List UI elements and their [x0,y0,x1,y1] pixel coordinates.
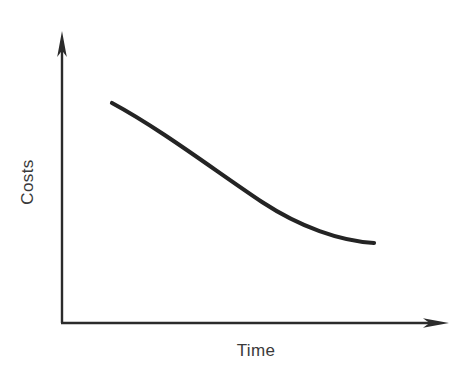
cost-time-chart: Costs Time [0,0,475,374]
x-axis-label: Time [237,341,276,360]
figure-root: Costs Time [0,0,475,374]
y-axis-label: Costs [18,159,37,204]
